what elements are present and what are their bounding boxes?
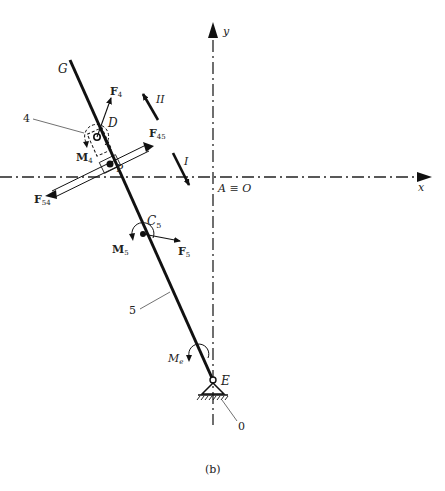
force-f5-label: F5 [178,245,190,259]
figure-caption: (b) [205,463,221,476]
body-4-label: 4 [23,112,30,125]
y-axis-label: y [222,25,230,38]
moment-m5-label: M5 [112,243,129,257]
force-f45-f54 [45,142,154,199]
link-5 [70,60,212,378]
x-axis-label: x [418,181,425,194]
body-0-label: 0 [238,420,245,433]
point-e-label: E [220,374,230,388]
x-axis [0,172,432,182]
point-p-label: P [116,162,124,175]
ground-support-e [197,377,237,421]
body-5-label: 5 [129,304,136,317]
mechanism-diagram: y x A ≡ O G D P C5 E 4 5 0 F4 F45 F54 F5… [0,0,445,491]
joint-p [107,161,114,168]
moment-m4-label: M4 [76,151,93,165]
point-c5-label: C5 [147,214,161,230]
slider-block-4 [87,128,111,156]
point-d-label: D [107,116,118,130]
y-axis [208,22,218,425]
force-f45-label: F45 [149,127,166,141]
direction-i-label: I [183,155,189,168]
direction-ii-label: II [155,93,165,106]
force-f4-label: F4 [110,85,123,99]
point-g-label: G [58,62,68,76]
origin-label: A ≡ O [217,182,251,195]
moment-me-label: Me [167,352,183,366]
